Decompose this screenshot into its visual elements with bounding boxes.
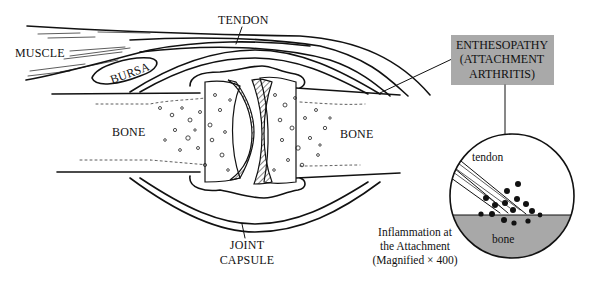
caption-line-3: (Magnified × 400)	[372, 254, 457, 267]
bone-right-label: BONE	[340, 127, 373, 141]
callout-line-2: (ATTACHMENT	[460, 52, 545, 66]
enthesopathy-diagram: ENTHESOPATHY (ATTACHMENT ARTHRITIS) tend…	[0, 0, 592, 281]
joint-capsule	[130, 50, 380, 238]
muscle-label: MUSCLE	[15, 46, 65, 60]
callout-line-3: ARTHRITIS)	[469, 67, 535, 81]
tendon-label: TENDON	[218, 13, 269, 27]
bone-left-label: BONE	[112, 125, 145, 139]
joint-capsule-label-line2: CAPSULE	[220, 253, 275, 267]
caption-line-2: the Attachment	[380, 240, 451, 252]
callout-line-1: ENTHESOPATHY	[456, 38, 549, 52]
bone-magnified-label: bone	[492, 233, 514, 245]
caption-line-1: Inflammation at	[378, 226, 453, 238]
magnified-view: tendon bone	[440, 134, 590, 275]
magnified-caption: Inflammation at the Attachment (Magnifie…	[372, 226, 457, 267]
tendon-magnified-label: tendon	[472, 151, 504, 163]
enthesopathy-callout: ENTHESOPATHY (ATTACHMENT ARTHRITIS)	[380, 35, 554, 134]
spongy-bone-texture	[159, 94, 332, 172]
joint-capsule-label-line1: JOINT	[230, 238, 265, 252]
callout-leader-line	[380, 59, 452, 93]
bone-end-right	[252, 77, 296, 184]
bone-end-left	[205, 80, 254, 182]
